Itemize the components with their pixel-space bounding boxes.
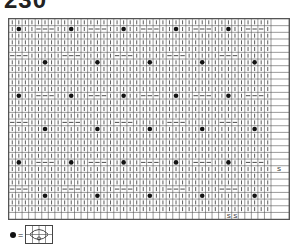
svg-text:S: S: [227, 213, 231, 219]
svg-text:S: S: [277, 166, 281, 172]
bobble-dot-icon: [10, 232, 16, 238]
legend: =: [10, 225, 53, 244]
legend-equals: =: [18, 230, 23, 240]
knitting-chart: SSS: [8, 18, 290, 220]
chart-title: 230: [4, 0, 47, 14]
svg-text:S: S: [233, 213, 237, 219]
bobble-diagram-icon: [25, 225, 53, 244]
stitch-grid: SSS: [9, 19, 289, 219]
